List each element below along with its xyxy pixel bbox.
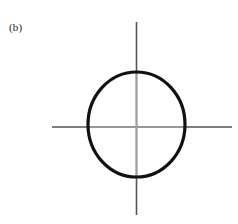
plot-area — [0, 0, 238, 224]
figure-panel: (b) — [0, 0, 238, 224]
